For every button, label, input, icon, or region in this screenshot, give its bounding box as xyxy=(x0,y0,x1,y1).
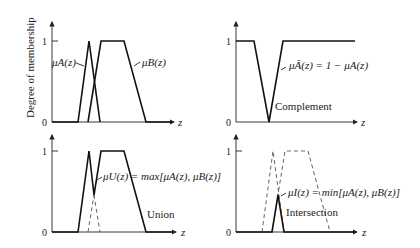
union-formula: μU(z) = max[μA(z), μB(z)] xyxy=(102,170,221,183)
tick-zero-label: 0 xyxy=(226,117,231,128)
x-axis-label: z xyxy=(361,226,367,238)
panel-union: 1 0 z μU(z) = max[μA(z), μB(z)] Union xyxy=(42,135,221,238)
mu-a-leader xyxy=(76,63,84,66)
intersection-title: Intersection xyxy=(286,206,338,218)
union-leader xyxy=(97,177,102,180)
intersection-formula: μI(z) = min[μA(z), μB(z)] xyxy=(287,186,400,199)
x-axis-label: z xyxy=(177,116,183,128)
intersection-leader xyxy=(281,193,286,196)
mu-a-curve xyxy=(52,41,100,122)
fuzzy-set-operations-figure: Degree of membership 1 0 z μA(z) μB(z) 1… xyxy=(0,0,420,248)
x-axis-label: z xyxy=(180,226,186,238)
tick-zero-label: 0 xyxy=(226,227,231,238)
panel-sets: 1 0 z μA(z) μB(z) xyxy=(42,22,183,128)
x-axis-label: z xyxy=(360,116,366,128)
tick-zero-label: 0 xyxy=(42,227,47,238)
mu-a-label: μA(z) xyxy=(51,56,76,69)
tick-one-label: 1 xyxy=(42,36,47,47)
y-axis-label: Degree of membership xyxy=(24,17,36,118)
tick-one-label: 1 xyxy=(226,36,231,47)
panel-complement: 1 0 z μĀ(z) = 1 − μA(z) Complement xyxy=(226,22,368,128)
mu-a-dashed xyxy=(262,151,284,232)
mu-b-dashed xyxy=(88,195,94,232)
tick-zero-label: 0 xyxy=(42,117,47,128)
mu-a-dashed xyxy=(94,195,100,232)
mu-b-label: μB(z) xyxy=(141,56,166,69)
tick-one-label: 1 xyxy=(226,146,231,157)
mu-b-curve xyxy=(88,41,172,122)
panel-intersection: 1 0 z μI(z) = min[μA(z), μB(z)] Intersec… xyxy=(226,135,400,238)
union-title: Union xyxy=(147,208,175,220)
mu-b-leader xyxy=(134,62,140,66)
complement-formula: μĀ(z) = 1 − μA(z) xyxy=(288,59,368,72)
tick-one-label: 1 xyxy=(42,146,47,157)
complement-title: Complement xyxy=(275,100,332,112)
complement-leader xyxy=(281,67,286,70)
